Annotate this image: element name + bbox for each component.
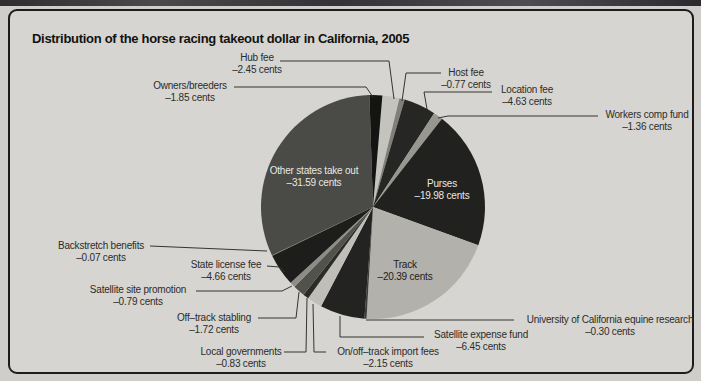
callout-leader-line — [438, 116, 598, 118]
slice-value: –2.45 cents — [232, 64, 282, 76]
slice-callout-hub-fee: Hub fee–2.45 cents — [232, 52, 282, 76]
callout-leader-line — [150, 246, 267, 251]
slice-value: –2.15 cents — [337, 358, 439, 370]
slice-value: –0.79 cents — [90, 296, 186, 308]
callout-leader-line — [234, 87, 373, 97]
slice-callout-local-governments: Local governments–0.83 cents — [200, 346, 281, 370]
slice-name: Off–track stabling — [177, 312, 251, 324]
slice-callout-other-states-take-out: Other states take out–31.59 cents — [270, 165, 359, 189]
slice-value: –0.30 cents — [527, 326, 694, 338]
slice-name: Purses — [415, 178, 470, 190]
slice-callout-owners-breeders: Owners/breeders–1.85 cents — [153, 80, 227, 104]
slice-value: –1.36 cents — [605, 121, 688, 133]
callout-leader-line — [340, 316, 424, 337]
slice-value: –4.66 cents — [191, 271, 262, 283]
slice-name: Location fee — [501, 84, 553, 96]
slice-callout-university-of-california-equine-research: University of California equine research… — [527, 314, 694, 338]
slice-value: –4.63 cents — [501, 96, 553, 108]
slice-value: –0.83 cents — [200, 358, 281, 370]
callout-leader-line — [280, 61, 394, 99]
callout-leader-line — [402, 73, 441, 101]
callout-leader-line — [258, 292, 299, 318]
slice-callout-satellite-expense-fund: Satellite expense fund–6.45 cents — [434, 329, 528, 353]
slice-callout-state-license-fee: State license fee–4.66 cents — [191, 259, 262, 283]
slice-callout-track: Track–20.39 cents — [378, 259, 433, 283]
slice-callout-host-fee: Host fee–0.77 cents — [441, 67, 491, 91]
callout-leader-line — [424, 92, 492, 109]
slice-value: –1.72 cents — [177, 324, 251, 336]
scanned-report-page: Distribution of the horse racing takeout… — [0, 0, 701, 381]
slice-value: –1.85 cents — [153, 92, 227, 104]
callout-leader-line — [196, 286, 292, 291]
slice-callout-satellite-site-promotion: Satellite site promotion–0.79 cents — [90, 284, 186, 308]
slice-name: Owners/breeders — [153, 80, 227, 92]
slice-name: State license fee — [191, 259, 262, 271]
slice-value: –6.45 cents — [434, 341, 528, 353]
slice-callout-off-track-stabling: Off–track stabling–1.72 cents — [177, 312, 251, 336]
slice-callout-on-off-track-import-fees: On/off–track import fees–2.15 cents — [337, 346, 439, 370]
slice-name: Satellite site promotion — [90, 284, 186, 296]
slice-callout-location-fee: Location fee–4.63 cents — [501, 84, 553, 108]
slice-value: –19.98 cents — [415, 190, 470, 202]
slice-name: Local governments — [200, 346, 281, 358]
slice-name: On/off–track import fees — [337, 346, 439, 358]
slice-value: –31.59 cents — [270, 177, 359, 189]
slice-name: Satellite expense fund — [434, 329, 528, 341]
callout-leader-line — [284, 298, 307, 352]
slice-name: Track — [378, 259, 433, 271]
slice-name: Backstretch benefits — [58, 240, 144, 252]
slice-value: –0.07 cents — [58, 252, 144, 264]
slice-value: –20.39 cents — [378, 271, 433, 283]
slice-name: University of California equine research — [527, 314, 694, 326]
slice-name: Hub fee — [232, 52, 282, 64]
slice-callout-workers-comp-fund: Workers comp fund–1.36 cents — [605, 109, 688, 133]
callout-leader-line — [313, 304, 326, 352]
slice-callout-purses: Purses–19.98 cents — [415, 178, 470, 202]
slice-name: Other states take out — [270, 165, 359, 177]
slice-name: Host fee — [441, 67, 491, 79]
slice-name: Workers comp fund — [605, 109, 688, 121]
slice-value: –0.77 cents — [441, 79, 491, 91]
slice-callout-backstretch-benefits: Backstretch benefits–0.07 cents — [58, 240, 144, 264]
